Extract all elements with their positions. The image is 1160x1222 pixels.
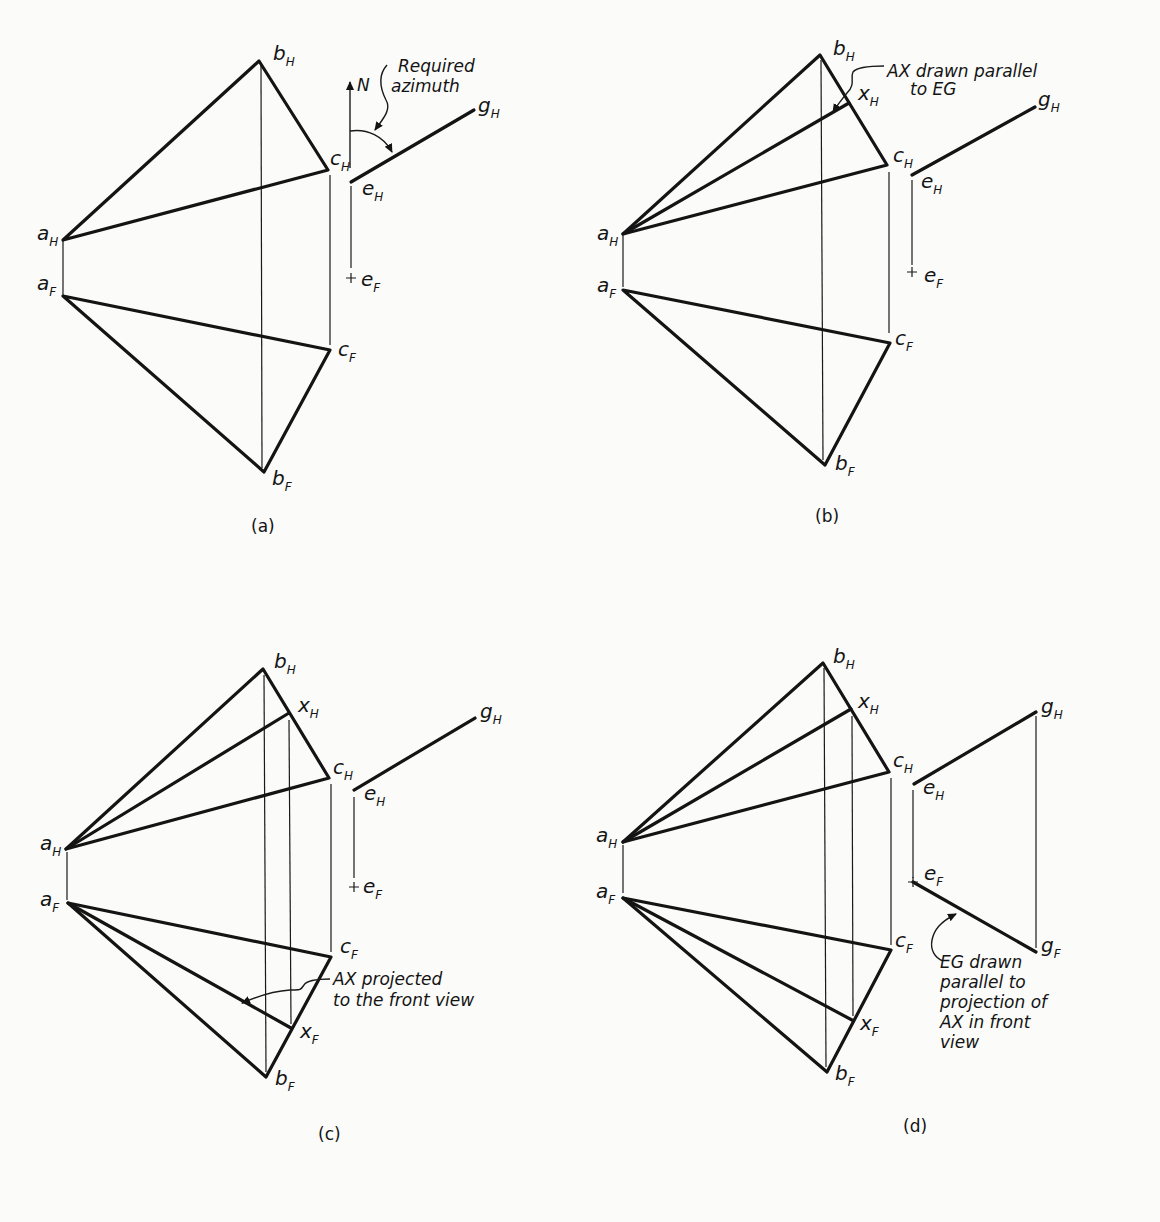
label-a-h: aH: [597, 221, 618, 249]
label-x-h: xH: [857, 689, 879, 717]
caption-a: (a): [251, 516, 275, 536]
line-ax-top-view: [66, 713, 289, 849]
line-ax-top-view: [623, 709, 851, 842]
label-a-f: aF: [40, 887, 60, 915]
label-b-h: bH: [274, 649, 296, 677]
label-c-f: cF: [895, 928, 914, 956]
line-ax-front-view: [623, 898, 852, 1020]
label-b-f: bF: [835, 451, 856, 479]
annotation-eg-parallel-line1: EG drawn: [940, 952, 1022, 972]
label-g-h: gH: [478, 93, 500, 121]
label-g-f: gF: [1041, 933, 1062, 961]
label-b-f: bF: [275, 1066, 296, 1094]
label-c-h: cH: [330, 146, 350, 174]
azimuth-leader: [375, 65, 388, 130]
label-a-f: aF: [37, 271, 57, 299]
line-eg-top-view: [914, 712, 1036, 784]
label-b-h: bH: [833, 36, 855, 64]
label-e-h: eH: [921, 169, 942, 197]
label-c-f: cF: [340, 934, 359, 962]
label-g-h: gH: [480, 699, 502, 727]
label-a-h: aH: [37, 221, 58, 249]
label-e-h: eH: [364, 781, 385, 809]
label-a-h: aH: [40, 831, 61, 859]
label-x-h: xH: [297, 693, 319, 721]
annotation-required-azimuth-line2: azimuth: [391, 76, 460, 96]
line-eg-top-view: [912, 107, 1035, 175]
label-c-h: cH: [893, 143, 913, 171]
label-b-f: bF: [835, 1061, 856, 1089]
point-marker-e-f: [349, 882, 359, 892]
annotation-eg-parallel-line2: parallel to: [939, 972, 1026, 992]
descriptive-geometry-figure: bH cH aH aF cF bF eH gH eF N Required az…: [0, 0, 1160, 1222]
annotation-eg-parallel-line3: projection of: [939, 992, 1050, 1012]
label-a-f: aF: [596, 879, 616, 907]
panel-a: bH cH aH aF cF bF eH gH eF N Required az…: [37, 41, 500, 536]
projection-line-x: [289, 720, 291, 1024]
projection-line-x: [852, 716, 853, 1016]
label-e-f: eF: [361, 267, 381, 295]
label-b-h: bH: [833, 644, 855, 672]
azimuth-arc: [350, 130, 392, 152]
label-c-h: cH: [893, 748, 913, 776]
projection-line-b: [261, 66, 262, 468]
label-e-h: eH: [923, 775, 944, 803]
caption-d: (d): [903, 1116, 927, 1136]
annotation-ax-parallel-line2: to EG: [910, 79, 956, 99]
annotation-ax-projected-line1: AX projected: [332, 969, 443, 989]
panel-b: bH xH cH aH aF cF bF eH gH eF AX drawn p…: [597, 36, 1060, 526]
panel-c: bH xH cH aH aF cF xF bF eH gH eF AX proj…: [40, 649, 502, 1144]
annotation-eg-parallel-line5: view: [940, 1032, 979, 1052]
label-e-f: eF: [363, 874, 383, 902]
label-b-h: bH: [273, 41, 295, 69]
annotation-ax-parallel-line1: AX drawn parallel: [886, 61, 1037, 81]
triangle-abc-front-view: [63, 296, 330, 472]
annotation-ax-projected-line2: to the front view: [333, 990, 474, 1010]
label-x-f: xF: [299, 1019, 320, 1047]
label-e-f: eF: [924, 263, 944, 291]
label-x-f: xF: [859, 1011, 880, 1039]
triangle-abc-top-view: [63, 61, 328, 240]
label-b-f: bF: [272, 466, 293, 494]
line-ax-top-view: [623, 103, 849, 234]
label-a-h: aH: [596, 823, 617, 851]
annotation-required-azimuth-line1: Required: [398, 56, 475, 76]
triangle-abc-front-view: [623, 290, 890, 465]
point-marker-e-f: [346, 273, 356, 283]
label-g-h: gH: [1041, 694, 1063, 722]
line-ax-front-view: [68, 903, 291, 1028]
line-eg-top-view: [354, 718, 475, 790]
label-c-h: cH: [333, 755, 353, 783]
point-marker-e-f: [907, 267, 917, 277]
triangle-abc-front-view: [623, 898, 891, 1072]
triangle-abc-top-view: [623, 663, 889, 842]
label-c-f: cF: [338, 337, 357, 365]
label-g-h: gH: [1038, 87, 1060, 115]
line-eg-top-view: [351, 110, 474, 182]
label-x-h: xH: [857, 81, 879, 109]
label-a-f: aF: [597, 273, 617, 301]
caption-b: (b): [815, 506, 839, 526]
label-north: N: [357, 75, 370, 95]
annotation-eg-parallel-line4: AX in front: [939, 1012, 1032, 1032]
panel-d: bH xH cH aH aF cF xF bF eH gH eF gF EG d…: [596, 644, 1063, 1136]
triangle-abc-top-view: [623, 55, 887, 234]
label-c-f: cF: [895, 326, 914, 354]
label-e-h: eH: [362, 176, 383, 204]
label-e-f: eF: [924, 861, 944, 889]
caption-c: (c): [318, 1124, 341, 1144]
